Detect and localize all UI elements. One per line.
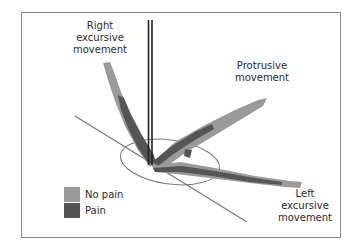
- left-excursive-label: Left excursive movement: [270, 188, 340, 224]
- legend-item-pain: Pain: [64, 202, 123, 218]
- legend-item-no-pain: No pain: [64, 186, 123, 202]
- pain-swatch: [64, 203, 80, 218]
- label-line: Left: [270, 188, 340, 200]
- label-line: excursive: [270, 200, 340, 212]
- inner-pain-notch: [184, 149, 192, 158]
- label-line: movement: [270, 212, 340, 224]
- label-line: excursive: [60, 32, 140, 44]
- legend-label: Pain: [85, 205, 106, 216]
- legend-label: No pain: [85, 189, 123, 200]
- label-line: Right: [60, 20, 140, 32]
- no-pain-swatch: [64, 187, 80, 202]
- label-line: movement: [222, 72, 302, 84]
- protrusive-no-pain-trace: [150, 98, 267, 170]
- label-line: movement: [60, 44, 140, 56]
- right-excursive-pain-trace: [118, 95, 156, 166]
- protrusive-pain-trace: [152, 124, 214, 166]
- label-line: Protrusive: [222, 60, 302, 72]
- legend: No pain Pain: [64, 186, 123, 218]
- protrusive-label: Protrusive movement: [222, 60, 302, 84]
- jaw-movement-diagram: Right excursive movement Protrusive move…: [0, 0, 356, 244]
- right-excursive-label: Right excursive movement: [60, 20, 140, 56]
